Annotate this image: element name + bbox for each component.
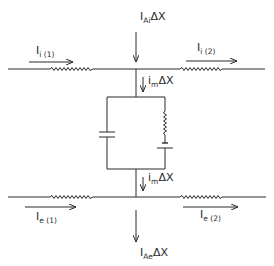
- battery-icon: [157, 143, 173, 148]
- label-extra-right: Ie (2): [200, 208, 221, 223]
- resistor-icon: [180, 196, 222, 199]
- label-extra-left: Ie (1): [36, 210, 57, 225]
- resistor-icon: [180, 68, 222, 71]
- resistor-icon: [50, 196, 93, 199]
- capacitor-icon: [99, 97, 115, 169]
- label-intra-right: Ii (2): [197, 41, 215, 56]
- resistor-icon: [164, 111, 167, 135]
- label-membrane-lower: imΔX: [148, 171, 174, 186]
- label-bottom-current: IAeΔX: [140, 246, 168, 261]
- circuit-diagram: IAiΔX Ii (1) Ii (2) imΔX imΔX Ie (1) Ie …: [0, 0, 274, 266]
- label-membrane-upper: imΔX: [148, 74, 174, 89]
- label-intra-left: Ii (1): [36, 44, 54, 59]
- extracellular-line: [8, 196, 266, 199]
- resistor-icon: [50, 68, 93, 71]
- label-top-current: IAiΔX: [140, 10, 166, 25]
